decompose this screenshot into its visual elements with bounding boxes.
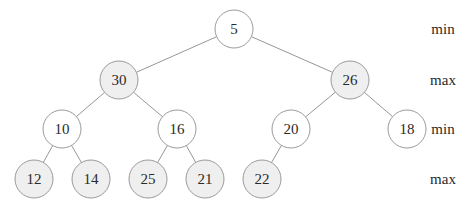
node-value: 20 (284, 121, 299, 137)
tree-node-22: 22 (243, 160, 281, 198)
edge-10-12 (43, 146, 52, 163)
node-value: 16 (170, 121, 186, 137)
node-value: 10 (55, 121, 70, 137)
tree-node-20: 20 (272, 110, 310, 148)
edges-layer (43, 37, 392, 163)
edge-30-16 (134, 92, 163, 116)
level-label-min: min (431, 121, 455, 137)
nodes-layer: 53026101620181214252122 (15, 10, 426, 198)
node-value: 25 (141, 171, 156, 187)
tree-node-25: 25 (129, 160, 167, 198)
edge-20-22 (272, 145, 282, 162)
node-value: 22 (255, 171, 270, 187)
node-value: 21 (198, 171, 213, 187)
edge-5-30 (136, 37, 216, 73)
node-value: 5 (230, 21, 238, 37)
tree-node-26: 26 (331, 61, 369, 99)
node-value: 26 (343, 72, 359, 88)
edge-26-18 (364, 92, 392, 116)
min-max-heap-diagram: 53026101620181214252122 minmaxminmax (0, 0, 472, 209)
edge-5-26 (251, 37, 332, 73)
tree-node-18: 18 (388, 110, 426, 148)
level-label-min: min (431, 21, 455, 37)
tree-node-10: 10 (43, 110, 81, 148)
tree-node-30: 30 (100, 61, 138, 99)
edge-10-14 (72, 145, 82, 162)
node-value: 12 (27, 171, 42, 187)
tree-node-16: 16 (158, 110, 196, 148)
edge-16-25 (158, 145, 168, 162)
level-labels-layer: minmaxminmax (430, 21, 456, 187)
node-value: 30 (112, 72, 127, 88)
level-label-max: max (430, 171, 456, 187)
tree-node-5: 5 (215, 10, 253, 48)
edge-16-21 (186, 146, 195, 163)
level-label-max: max (430, 72, 456, 88)
tree-node-14: 14 (72, 160, 110, 198)
node-value: 18 (400, 121, 415, 137)
tree-node-12: 12 (15, 160, 53, 198)
edge-30-10 (76, 92, 104, 116)
tree-node-21: 21 (186, 160, 224, 198)
node-value: 14 (84, 171, 100, 187)
edge-26-20 (306, 92, 336, 117)
